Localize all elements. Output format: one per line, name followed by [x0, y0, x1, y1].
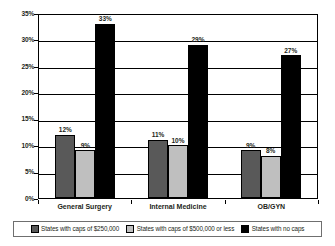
bar-chart: 0%5%10%15%20%25%30%35% 12%9%33%11%10%29%…	[0, 0, 335, 246]
bar-group: 11%10%29%	[132, 15, 225, 198]
bar	[188, 45, 208, 198]
x-axis-tick-mark	[38, 200, 39, 204]
chart-legend: States with caps of $250,000States with …	[13, 221, 322, 237]
legend-swatch-icon	[31, 225, 39, 233]
bar-value-label: 29%	[183, 37, 213, 44]
bar	[261, 156, 281, 198]
bar-group: 12%9%33%	[39, 15, 132, 198]
y-axis-tick-label: 0%	[4, 196, 34, 203]
plot-area: 12%9%33%11%10%29%9%8%27%	[38, 14, 318, 199]
bar	[95, 24, 115, 198]
legend-label: States with caps of $500,000 or less	[137, 226, 235, 232]
legend-item[interactable]: States with caps of $250,000	[31, 225, 120, 233]
x-axis-category-label: OB/GYN	[225, 200, 318, 214]
x-axis-category-label: General Surgery	[38, 200, 131, 214]
y-axis-tick-label: 25%	[4, 64, 34, 71]
bar-slot: 27%	[281, 15, 301, 198]
bar	[148, 140, 168, 198]
y-axis-tick-label: 20%	[4, 90, 34, 97]
y-axis-tick-label: 10%	[4, 143, 34, 150]
y-axis-tick-label: 5%	[4, 169, 34, 176]
legend-label: States with no caps	[252, 226, 305, 232]
y-axis-tick-label: 35%	[4, 11, 34, 18]
bar-slot: 8%	[261, 15, 281, 198]
bar-group: 9%8%27%	[224, 15, 317, 198]
bar	[168, 145, 188, 198]
bar-slot: 29%	[188, 15, 208, 198]
bar	[241, 150, 261, 198]
bar-slot: 33%	[95, 15, 115, 198]
bar-slot: 9%	[75, 15, 95, 198]
y-axis-tick-label: 30%	[4, 37, 34, 44]
bar-slot: 12%	[55, 15, 75, 198]
legend-item[interactable]: States with no caps	[241, 225, 304, 233]
legend-label: States with caps of $250,000	[41, 226, 119, 232]
bar	[75, 150, 95, 198]
x-axis-tick-mark	[225, 200, 226, 204]
bar-groups: 12%9%33%11%10%29%9%8%27%	[39, 15, 317, 198]
x-axis-tick-mark	[131, 200, 132, 204]
bar-value-label: 33%	[90, 16, 120, 23]
legend-item[interactable]: States with caps of $500,000 or less	[126, 225, 234, 233]
bar-slot: 9%	[241, 15, 261, 198]
x-axis-tick-mark	[318, 200, 319, 204]
bar	[281, 55, 301, 198]
bar-slot: 11%	[148, 15, 168, 198]
bar-value-label: 27%	[276, 48, 306, 55]
legend-swatch-icon	[126, 225, 134, 233]
x-axis-categories: General SurgeryInternal MedicineOB/GYN	[38, 200, 318, 214]
x-axis-category-label: Internal Medicine	[131, 200, 224, 214]
y-axis-tick-label: 15%	[4, 116, 34, 123]
legend-swatch-icon	[241, 225, 249, 233]
